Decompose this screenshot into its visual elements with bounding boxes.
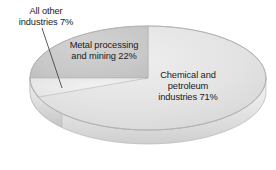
label-chemical-line2: petroleum — [142, 81, 234, 92]
label-chemical-line3: industries 71% — [142, 92, 234, 103]
label-chemical-petroleum: Chemical and petroleum industries 71% — [142, 70, 234, 102]
label-metal-line1: Metal processing — [56, 40, 152, 51]
label-all-other-line2: industries 7% — [4, 17, 88, 28]
label-all-other-line1: All other — [4, 6, 88, 17]
label-all-other-industries: All other industries 7% — [4, 6, 88, 28]
label-metal-line2: and mining 22% — [56, 51, 152, 62]
pie-chart-figure: All other industries 7% Metal processing… — [0, 0, 276, 170]
label-metal-processing: Metal processing and mining 22% — [56, 40, 152, 62]
label-chemical-line1: Chemical and — [142, 70, 234, 81]
